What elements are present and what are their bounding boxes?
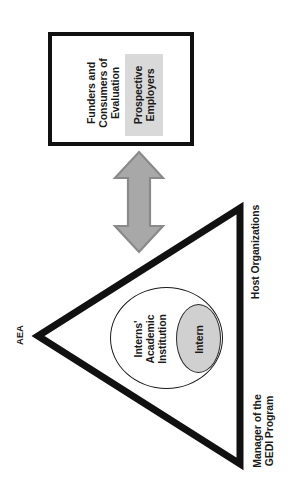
- prospective-employers-chip: Prospective Employers: [125, 54, 163, 136]
- intern-label: Intern: [193, 314, 206, 366]
- gedi-manager-line-2: GEDI Program: [263, 394, 275, 467]
- institution-line-3: Institution: [156, 314, 168, 364]
- employers-line-1: Prospective: [132, 66, 144, 124]
- stakeholder-box: Funders and Consumers of Evaluation Pros…: [48, 32, 194, 146]
- institution-line-1: Interns': [132, 314, 144, 364]
- employers-line-2: Employers: [144, 66, 156, 124]
- intern-ellipse: Intern: [176, 304, 221, 373]
- gedi-manager-line-1: Manager of the: [251, 394, 263, 467]
- funders-line-1: Funders and: [85, 58, 97, 127]
- diagram-canvas: Funders and Consumers of Evaluation Pros…: [0, 0, 294, 493]
- funders-line-3: Evaluation: [109, 58, 121, 127]
- funders-line-2: Consumers of: [97, 58, 109, 127]
- institution-line-2: Academic: [144, 314, 156, 364]
- interns-academic-institution-label: Interns' Academic Institution: [117, 306, 183, 372]
- gedi-program-manager-label: Manager of the GEDI Program: [249, 384, 277, 478]
- aea-label: AEA: [13, 317, 27, 353]
- host-organizations-label: Host Organizations: [248, 200, 262, 304]
- prospective-employers-label: Prospective Employers: [131, 63, 157, 127]
